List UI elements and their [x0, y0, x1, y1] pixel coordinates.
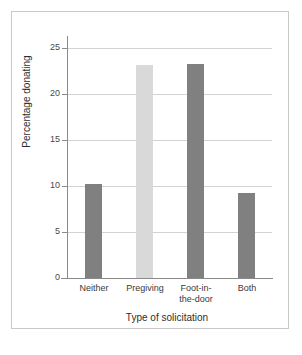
y-tick-label-25: 25	[32, 43, 60, 52]
y-tick-label-0: 0	[32, 273, 60, 282]
x-tick-label-both: Both	[213, 283, 281, 294]
x-tick-label-line: the-door	[162, 294, 230, 305]
x-axis-line	[61, 278, 273, 279]
x-tick-label-line: Both	[213, 283, 281, 294]
y-tick-label-10: 10	[32, 181, 60, 190]
y-tick-label-5: 5	[32, 227, 60, 236]
y-tick-mark-5	[62, 232, 67, 233]
y-tick-mark-25	[62, 48, 67, 49]
y-tick-labels-group: 0510152025	[28, 0, 60, 355]
y-tick-mark-20	[62, 94, 67, 95]
bar-chart-figure: 0510152025 NeitherPregivingFoot-in-the-d…	[0, 0, 302, 355]
y-axis-title: Percentage donating	[21, 32, 32, 172]
y-tick-mark-0	[62, 278, 67, 279]
bar-neither	[85, 184, 102, 278]
y-tick-label-20: 20	[32, 89, 60, 98]
y-tick-label-15: 15	[32, 135, 60, 144]
y-tick-mark-15	[62, 140, 67, 141]
bar-foot-in-the-door	[187, 64, 204, 278]
bar-both	[238, 193, 255, 278]
bar-pregiving	[136, 65, 153, 278]
y-tick-mark-10	[62, 186, 67, 187]
x-axis-title: Type of solicitation	[61, 312, 273, 323]
plot-area	[68, 40, 272, 278]
